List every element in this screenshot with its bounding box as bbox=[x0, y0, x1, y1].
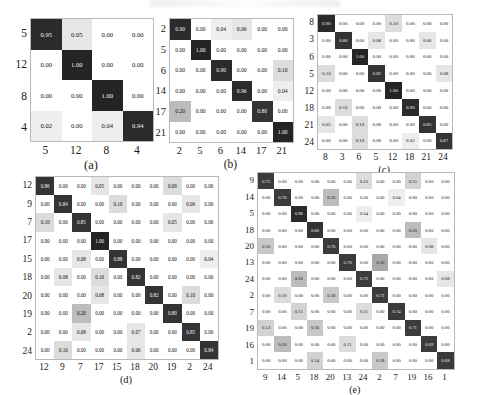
matrix-cell: 0.00 bbox=[36, 232, 54, 250]
matrix-cell: 0.00 bbox=[405, 352, 421, 368]
y-axis-tick-label: 24 bbox=[20, 342, 35, 360]
matrix-cell: 0.16 bbox=[258, 238, 274, 254]
matrix-cell: 0.00 bbox=[339, 173, 355, 189]
matrix-cell: 0.00 bbox=[36, 304, 54, 322]
matrix-cell: 0.00 bbox=[385, 133, 402, 150]
x-axis-tick-label: 20 bbox=[144, 360, 162, 372]
matrix-cell: 0.00 bbox=[109, 268, 127, 286]
matrix-cell: 0.00 bbox=[368, 99, 385, 116]
x-axis-tick-label: 8 bbox=[91, 142, 122, 156]
y-axis-tick-label: 12 bbox=[303, 82, 317, 99]
matrix-cell: 0.00 bbox=[163, 232, 181, 250]
matrix-cell: 0.00 bbox=[191, 122, 212, 143]
matrix-cell: 0.00 bbox=[211, 101, 232, 122]
y-axis-tick-label: 2 bbox=[243, 287, 257, 303]
matrix-cell: 0.00 bbox=[145, 250, 163, 268]
matrix-cell: 0.00 bbox=[163, 195, 181, 213]
matrix-cell: 0.00 bbox=[405, 303, 421, 319]
matrix-cell: 0.00 bbox=[421, 271, 437, 287]
matrix-cell: 0.00 bbox=[274, 238, 290, 254]
matrix-cell: 0.00 bbox=[258, 336, 274, 352]
matrix-cell: 0.00 bbox=[372, 222, 388, 238]
matrix-cell: 0.90 bbox=[402, 99, 419, 116]
matrix-cell: 0.10 bbox=[91, 268, 109, 286]
matrix-cell: 0.00 bbox=[419, 65, 436, 82]
matrix-cell: 0.00 bbox=[385, 65, 402, 82]
matrix-cell: 0.00 bbox=[170, 122, 191, 143]
panel-c: 8365121821240.900.000.000.000.100.000.00… bbox=[303, 14, 453, 175]
matrix-cell: 0.00 bbox=[200, 268, 218, 286]
y-axis-tick-label: 6 bbox=[155, 60, 169, 81]
matrix-cell: 0.00 bbox=[323, 173, 339, 189]
matrix-cell: 0.00 bbox=[291, 336, 307, 352]
confusion-matrix-e: 91451820132427191610.750.000.000.000.000… bbox=[243, 172, 455, 395]
matrix-cell: 0.00 bbox=[368, 82, 385, 99]
panel-caption-d: (d) bbox=[35, 374, 217, 385]
matrix-cell: 0.82 bbox=[127, 268, 145, 286]
matrix-cell: 0.00 bbox=[232, 122, 253, 143]
matrix-cell: 0.00 bbox=[258, 222, 274, 238]
matrix-cell: 0.00 bbox=[307, 271, 323, 287]
matrix-cell: 0.00 bbox=[356, 254, 372, 270]
matrix-cell: 0.20 bbox=[405, 222, 421, 238]
matrix-cell: 0.00 bbox=[258, 189, 274, 205]
matrix-cell: 0.02 bbox=[31, 111, 62, 142]
panel-e: 91451820132427191610.750.000.000.000.000… bbox=[243, 172, 455, 395]
x-axis-tick-label: 5 bbox=[30, 142, 61, 156]
y-axis-tick-label: 24 bbox=[303, 134, 317, 151]
matrix-cell: 0.20 bbox=[291, 271, 307, 287]
y-axis-tick-label: 7 bbox=[243, 304, 257, 320]
matrix-cell: 0.00 bbox=[211, 40, 232, 61]
x-axis-tick-label: 5 bbox=[290, 370, 306, 382]
matrix-cell: 0.90 bbox=[211, 60, 232, 81]
matrix-cell: 0.00 bbox=[436, 116, 453, 133]
matrix-cell: 0.00 bbox=[182, 304, 200, 322]
matrix-cell: 0.00 bbox=[92, 19, 123, 50]
matrix-cell: 0.00 bbox=[145, 323, 163, 341]
x-axis-tick-label: 8 bbox=[317, 150, 334, 162]
matrix-cell: 0.00 bbox=[145, 304, 163, 322]
matrix-cell: 0.00 bbox=[91, 323, 109, 341]
matrix-cell: 0.00 bbox=[54, 177, 72, 195]
matrix-cell: 0.00 bbox=[372, 336, 388, 352]
matrix-cell: 0.72 bbox=[356, 271, 372, 287]
matrix-grid-c: 0.900.000.000.000.100.000.000.000.000.86… bbox=[317, 14, 453, 150]
matrix-cell: 0.00 bbox=[182, 250, 200, 268]
x-axis-tick-label: 14 bbox=[273, 370, 289, 382]
x-axis-tick-label: 12 bbox=[61, 142, 92, 156]
matrix-cell: 0.00 bbox=[356, 352, 372, 368]
matrix-cell: 0.00 bbox=[419, 99, 436, 116]
y-axis-tick-label: 19 bbox=[20, 305, 35, 323]
matrix-cell: 0.00 bbox=[421, 222, 437, 238]
panel-b: 2561417210.900.000.040.060.000.000.001.0… bbox=[155, 18, 294, 170]
matrix-cell: 0.00 bbox=[123, 50, 154, 81]
matrix-cell: 0.00 bbox=[405, 271, 421, 287]
matrix-cell: 0.00 bbox=[291, 254, 307, 270]
matrix-cell: 0.74 bbox=[388, 303, 404, 319]
x-axis-labels-b: 256141721 bbox=[169, 143, 292, 156]
matrix-cell: 0.00 bbox=[36, 341, 54, 359]
matrix-cell: 0.00 bbox=[200, 195, 218, 213]
matrix-cell: 0.00 bbox=[54, 213, 72, 231]
matrix-cell: 0.00 bbox=[402, 49, 419, 66]
y-axis-tick-label: 24 bbox=[243, 271, 257, 287]
y-axis-labels-d: 12971715182019224 bbox=[20, 176, 35, 360]
matrix-cell: 0.00 bbox=[421, 352, 437, 368]
matrix-cell: 0.00 bbox=[421, 320, 437, 336]
matrix-cell: 0.00 bbox=[352, 82, 369, 99]
matrix-cell: 0.00 bbox=[36, 323, 54, 341]
matrix-cell: 0.00 bbox=[109, 177, 127, 195]
matrix-cell: 0.00 bbox=[323, 206, 339, 222]
matrix-cell: 0.88 bbox=[109, 250, 127, 268]
matrix-cell: 0.06 bbox=[232, 19, 253, 40]
matrix-cell: 0.00 bbox=[200, 232, 218, 250]
matrix-cell: 0.00 bbox=[421, 287, 437, 303]
matrix-cell: 0.00 bbox=[252, 40, 273, 61]
confusion-matrix-d: 129717151820192240.860.000.000.050.000.0… bbox=[20, 176, 219, 385]
matrix-cell: 0.20 bbox=[274, 336, 290, 352]
matrix-cell: 0.00 bbox=[127, 177, 145, 195]
matrix-cell: 0.00 bbox=[323, 271, 339, 287]
matrix-cell: 0.08 bbox=[421, 238, 437, 254]
matrix-cell: 0.30 bbox=[372, 254, 388, 270]
matrix-cell: 0.00 bbox=[437, 206, 453, 222]
